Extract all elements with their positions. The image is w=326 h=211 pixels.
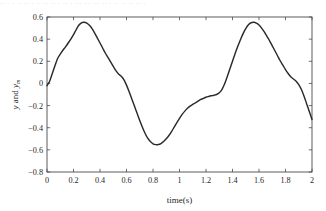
svg-text:y and ym: y and ym (10, 79, 21, 111)
y-tick-label: −0.2 (28, 102, 43, 111)
y-tick-label: 0.4 (33, 35, 43, 44)
x-tick-label: 1.4 (227, 176, 237, 185)
figure-container: ·· · · ·· ·· · ·· ·· ·· · ·· · ··· ·· ··… (0, 0, 326, 211)
y-tick-label: −0.4 (28, 124, 43, 133)
x-tick-label: 1.6 (254, 176, 264, 185)
y-tick-label: 0.2 (33, 57, 43, 66)
x-tick-label: 1.2 (201, 176, 211, 185)
x-tick-label: 0.6 (121, 176, 131, 185)
plot-frame (47, 17, 312, 172)
y-tick-label: −0.6 (28, 146, 43, 155)
y-axis-title: y and ym (10, 79, 21, 111)
x-tick-label: 0.4 (95, 176, 105, 185)
data-series-curve (47, 22, 312, 144)
x-tick-label: 2 (310, 176, 314, 185)
y-tick-label: 0 (39, 79, 43, 88)
y-tick-label: 0.6 (33, 13, 43, 22)
chart-plot: 00.20.40.60.811.21.41.61.82 0.60.40.20−0… (0, 0, 326, 211)
y-tick-label: −0.8 (28, 168, 43, 177)
x-tick-label: 1 (177, 176, 181, 185)
x-tick-label: 1.8 (280, 176, 290, 185)
x-axis-title: time(s) (167, 195, 193, 205)
x-tick-label: 0.2 (68, 176, 78, 185)
y-axis-tick-marks (47, 17, 312, 172)
y-axis-tick-labels: 0.60.40.20−0.2−0.4−0.6−0.8 (28, 13, 43, 177)
x-tick-label: 0 (45, 176, 49, 185)
y-axis-title-conjunction: and (10, 88, 20, 106)
x-axis-tick-labels: 00.20.40.60.811.21.41.61.82 (45, 176, 314, 185)
x-tick-label: 0.8 (148, 176, 158, 185)
y-axis-title-subscript: m (15, 79, 21, 84)
x-axis-tick-marks (47, 17, 312, 172)
